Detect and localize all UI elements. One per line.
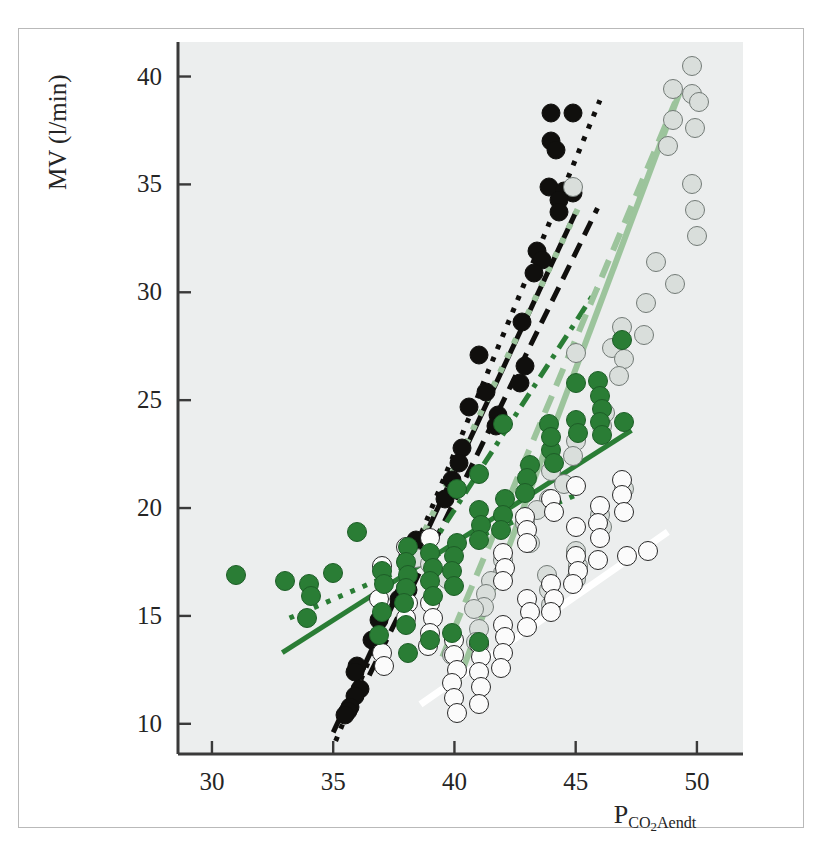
data-point-black-filled bbox=[336, 706, 355, 725]
data-point-grey-filled bbox=[687, 226, 707, 246]
data-point-dark-green-filled bbox=[398, 643, 418, 663]
data-point-grey-filled bbox=[658, 136, 678, 156]
plot-area bbox=[178, 42, 743, 754]
data-point-grey-filled bbox=[682, 174, 702, 194]
x-tick-label-35: 35 bbox=[321, 768, 346, 796]
y-tick-label-10: 10 bbox=[110, 710, 162, 738]
data-point-grey-filled bbox=[663, 110, 683, 130]
data-point-dark-green-filled bbox=[420, 630, 440, 650]
data-point-black-filled bbox=[547, 140, 566, 159]
data-point-open-circle bbox=[469, 694, 489, 714]
x-axis-label: PCO2Aendt bbox=[614, 800, 697, 835]
data-point-open-circle bbox=[566, 517, 586, 537]
x-tick-label-45: 45 bbox=[563, 768, 588, 796]
data-point-open-circle bbox=[617, 546, 637, 566]
data-point-dark-green-filled bbox=[469, 530, 489, 550]
data-point-dark-green-filled bbox=[226, 565, 246, 585]
data-point-dark-green-filled bbox=[275, 571, 295, 591]
data-point-dark-green-filled bbox=[323, 563, 343, 583]
data-point-black-filled bbox=[469, 345, 488, 364]
data-point-open-circle bbox=[541, 602, 561, 622]
data-point-open-circle bbox=[493, 571, 513, 591]
data-point-open-circle bbox=[588, 550, 608, 570]
data-point-dark-green-filled bbox=[566, 373, 586, 393]
data-point-dark-green-filled bbox=[372, 602, 392, 622]
data-point-black-filled bbox=[459, 397, 478, 416]
data-point-dark-green-filled bbox=[541, 427, 561, 447]
data-point-dark-green-filled bbox=[396, 615, 416, 635]
data-point-open-circle bbox=[544, 502, 564, 522]
y-tick-label-40: 40 bbox=[110, 63, 162, 91]
data-point-dark-green-filled bbox=[612, 330, 632, 350]
data-point-open-circle bbox=[374, 656, 394, 676]
data-point-grey-filled bbox=[636, 293, 656, 313]
x-axis-label-sub-a: CO bbox=[628, 814, 650, 831]
data-point-open-circle bbox=[566, 476, 586, 496]
y-tick-label-15: 15 bbox=[110, 602, 162, 630]
figure-root: 10152025303540 3035404550 MV (l/min) PCO… bbox=[0, 0, 829, 863]
data-point-black-filled bbox=[510, 373, 529, 392]
data-point-grey-filled bbox=[685, 200, 705, 220]
data-point-dark-green-filled bbox=[301, 586, 321, 606]
data-point-black-filled bbox=[513, 313, 532, 332]
data-point-open-circle bbox=[517, 533, 537, 553]
data-point-dark-green-filled bbox=[469, 464, 489, 484]
x-axis-label-sub: CO2Aendt bbox=[628, 814, 696, 831]
x-axis-label-sub-b: Aendt bbox=[657, 814, 696, 831]
data-point-dark-green-filled bbox=[394, 593, 414, 613]
data-point-open-circle bbox=[447, 703, 467, 723]
data-point-grey-filled bbox=[689, 92, 709, 112]
data-point-dark-green-filled bbox=[614, 412, 634, 432]
data-point-open-circle bbox=[638, 541, 658, 561]
data-point-black-filled bbox=[346, 663, 365, 682]
data-point-grey-filled bbox=[609, 366, 629, 386]
data-point-dark-green-filled bbox=[592, 425, 612, 445]
data-point-dark-green-filled bbox=[568, 423, 588, 443]
data-point-dark-green-filled bbox=[447, 479, 467, 499]
data-point-grey-filled bbox=[563, 177, 583, 197]
data-point-open-circle bbox=[590, 528, 610, 548]
y-axis-label: MV (l/min) bbox=[44, 74, 72, 190]
data-point-grey-filled bbox=[685, 118, 705, 138]
data-point-black-filled bbox=[549, 203, 568, 222]
data-point-grey-filled bbox=[634, 325, 654, 345]
y-tick-label-20: 20 bbox=[110, 494, 162, 522]
data-point-dark-green-filled bbox=[493, 414, 513, 434]
data-point-grey-filled bbox=[464, 599, 484, 619]
y-tick-label-25: 25 bbox=[110, 386, 162, 414]
data-point-open-circle bbox=[563, 574, 583, 594]
data-point-black-filled bbox=[564, 104, 583, 123]
data-point-grey-filled bbox=[663, 79, 683, 99]
data-point-dark-green-filled bbox=[515, 483, 535, 503]
data-point-grey-filled bbox=[566, 343, 586, 363]
data-point-dark-green-filled bbox=[442, 623, 462, 643]
data-point-grey-filled bbox=[563, 446, 583, 466]
data-point-dark-green-filled bbox=[423, 586, 443, 606]
data-point-dark-green-filled bbox=[544, 453, 564, 473]
data-point-dark-green-filled bbox=[469, 632, 489, 652]
y-tick-label-30: 30 bbox=[110, 278, 162, 306]
x-axis-label-main: P bbox=[614, 800, 628, 829]
data-point-open-circle bbox=[517, 617, 537, 637]
x-tick-label-50: 50 bbox=[684, 768, 709, 796]
data-point-black-filled bbox=[450, 453, 469, 472]
y-tick-label-35: 35 bbox=[110, 170, 162, 198]
data-point-dark-green-filled bbox=[369, 625, 389, 645]
data-point-grey-filled bbox=[682, 56, 702, 76]
x-tick-label-40: 40 bbox=[442, 768, 467, 796]
data-point-grey-filled bbox=[665, 274, 685, 294]
data-point-open-circle bbox=[491, 658, 511, 678]
data-point-open-circle bbox=[614, 502, 634, 522]
data-point-dark-green-filled bbox=[491, 520, 511, 540]
data-point-grey-filled bbox=[646, 252, 666, 272]
data-point-dark-green-filled bbox=[444, 576, 464, 596]
data-point-dark-green-filled bbox=[297, 608, 317, 628]
data-point-dark-green-filled bbox=[374, 574, 394, 594]
x-tick-label-30: 30 bbox=[199, 768, 224, 796]
data-point-dark-green-filled bbox=[347, 522, 367, 542]
data-point-black-filled bbox=[542, 104, 561, 123]
data-point-black-filled bbox=[515, 356, 534, 375]
data-point-black-filled bbox=[476, 382, 495, 401]
data-point-black-filled bbox=[525, 263, 544, 282]
